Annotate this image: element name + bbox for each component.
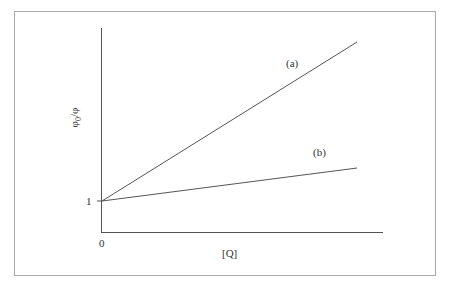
x-tick-label-0: 0 xyxy=(99,238,105,249)
x-axis-label: [Q] xyxy=(222,248,237,259)
y-axis-label-main: φ xyxy=(68,121,80,127)
y-axis-label: φ0/φ xyxy=(68,108,83,128)
y-tick-label-1: 1 xyxy=(86,196,92,207)
chart-plot xyxy=(0,0,450,288)
series-b-label: (b) xyxy=(313,147,326,158)
y-axis-label-rest: /φ xyxy=(68,108,80,117)
series-a-line xyxy=(102,42,357,201)
series-a-label: (a) xyxy=(286,58,298,69)
y-axis-label-sub: 0 xyxy=(74,117,83,121)
series-b-line xyxy=(102,168,357,201)
